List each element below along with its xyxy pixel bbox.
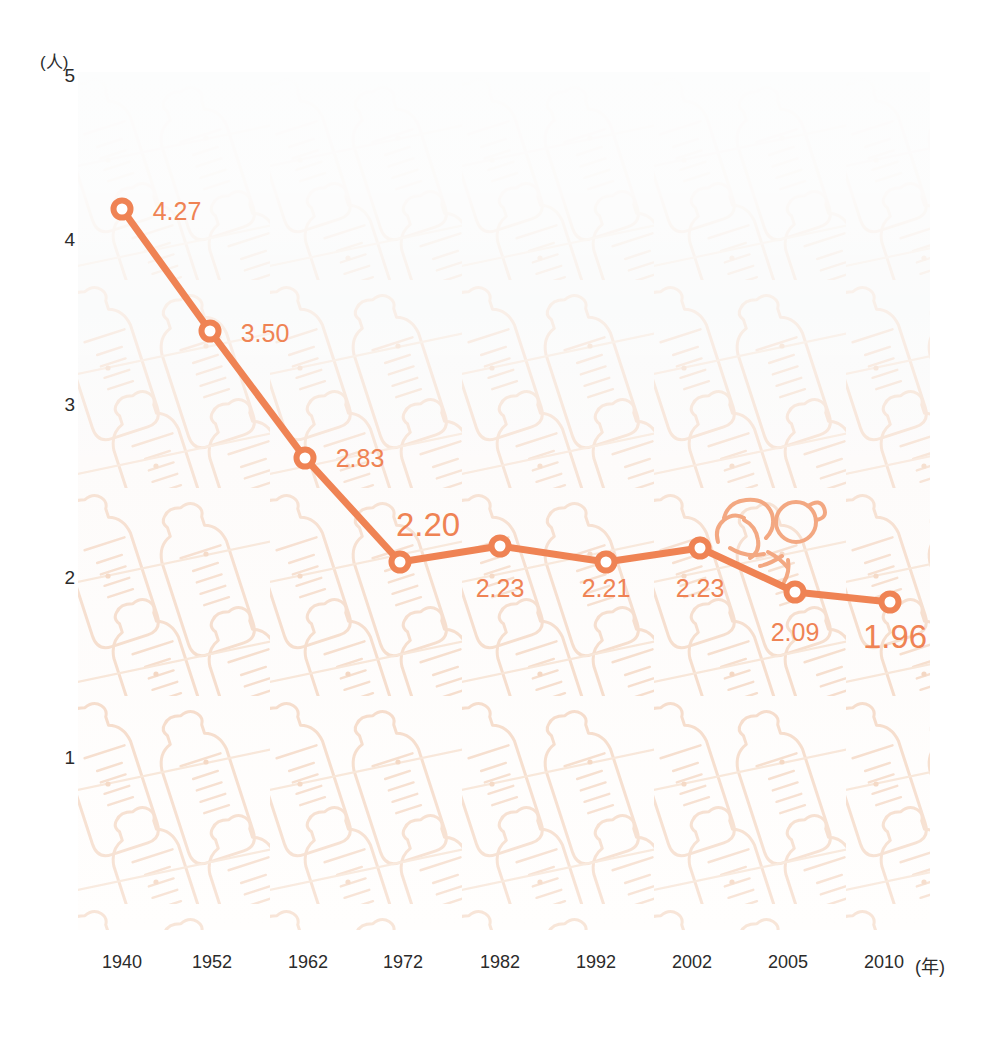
series-layer [0,0,998,1042]
value-label-1952: 3.50 [241,319,290,348]
x-tick-1972: 1972 [383,952,423,973]
x-tick-1992: 1992 [576,952,616,973]
crawling-baby-doodle [717,500,825,582]
value-label-1992: 2.21 [582,574,631,603]
value-label-1972: 2.20 [396,506,460,544]
x-tick-1952: 1952 [192,952,232,973]
value-label-2005: 2.09 [771,618,820,647]
value-label-2002: 2.23 [676,574,725,603]
value-label-1962: 2.83 [336,444,385,473]
value-label-1940: 4.27 [153,197,202,226]
value-label-2010: 1.96 [863,618,927,656]
x-tick-2010: 2010 [864,952,904,973]
x-tick-2002: 2002 [672,952,712,973]
line-chart: (人) 5 4 3 2 1 [0,0,998,1042]
x-tick-2005: 2005 [768,952,808,973]
value-label-1982: 2.23 [476,574,525,603]
data-markers [114,201,899,611]
x-tick-1982: 1982 [480,952,520,973]
x-axis-unit-label: (年) [915,952,945,978]
x-tick-1940: 1940 [102,952,142,973]
x-tick-1962: 1962 [288,952,328,973]
